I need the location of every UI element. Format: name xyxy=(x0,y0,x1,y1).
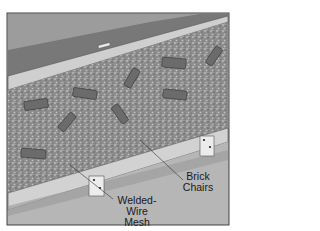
label-brick-chairs: Brick Chairs xyxy=(178,171,218,193)
label-welded-wire-mesh: Welded- Wire Mesh xyxy=(112,195,162,228)
label-brick-chairs-line2: Chairs xyxy=(178,182,218,193)
front-stake-right xyxy=(200,136,214,156)
label-mesh-line2: Wire Mesh xyxy=(112,206,162,228)
